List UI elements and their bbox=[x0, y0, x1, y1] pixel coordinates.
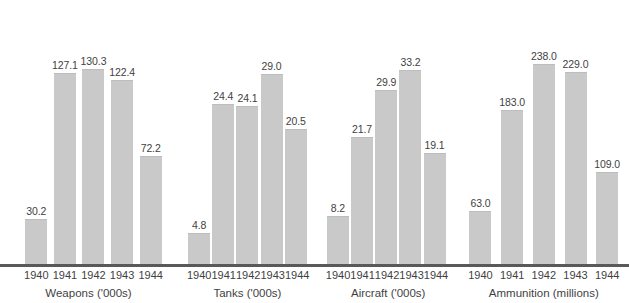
bar-value-label: 30.2 bbox=[26, 206, 46, 217]
bar-slot: 130.3 bbox=[79, 16, 108, 264]
x-tick-label: 1943 bbox=[108, 268, 137, 283]
bar bbox=[596, 172, 618, 264]
bar-value-label: 130.3 bbox=[81, 56, 107, 67]
panel-title: Ammunition (millions) bbox=[459, 286, 629, 300]
x-tick-label: 1944 bbox=[285, 268, 309, 283]
bar bbox=[212, 104, 234, 264]
bar-value-label: 229.0 bbox=[563, 59, 589, 70]
bar-value-label: 122.4 bbox=[109, 67, 135, 78]
x-tick-label: 1941 bbox=[350, 268, 374, 283]
x-tick-label: 1942 bbox=[528, 268, 560, 283]
x-tick-label: 1943 bbox=[260, 268, 284, 283]
bar-chart-figure: 30.2127.1130.3122.472.219401941194219431… bbox=[0, 0, 629, 303]
panel-title: Aircraft ('000s) bbox=[318, 286, 459, 300]
bar-slot: 30.2 bbox=[22, 16, 51, 264]
bar-value-label: 183.0 bbox=[499, 97, 525, 108]
x-tick-label: 1941 bbox=[51, 268, 80, 283]
x-tick-labels: 19401941194219431944 bbox=[0, 268, 177, 283]
bar bbox=[236, 106, 258, 264]
bar-slot: 238.0 bbox=[528, 16, 560, 264]
x-tick-label: 1942 bbox=[236, 268, 260, 283]
bar-slot: 20.5 bbox=[284, 16, 308, 264]
plot-area: 30.2127.1130.3122.472.2 bbox=[0, 16, 177, 264]
bar bbox=[375, 90, 397, 264]
bar bbox=[533, 64, 555, 264]
bar-slot: 24.4 bbox=[211, 16, 235, 264]
bar-value-label: 238.0 bbox=[531, 51, 557, 62]
bar-value-label: 19.1 bbox=[425, 140, 445, 151]
bar-value-label: 24.1 bbox=[237, 93, 257, 104]
x-tick-label: 1940 bbox=[465, 268, 497, 283]
bar-value-label: 29.0 bbox=[262, 61, 282, 72]
x-tick-label: 1944 bbox=[424, 268, 448, 283]
x-tick-labels: 19401941194219431944 bbox=[459, 268, 629, 283]
panel-weapons-000s: 30.2127.1130.3122.472.219401941194219431… bbox=[0, 0, 177, 303]
panel-tanks-000s: 4.824.424.129.020.519401941194219431944T… bbox=[177, 0, 318, 303]
bar bbox=[285, 129, 307, 264]
x-tick-label: 1942 bbox=[375, 268, 399, 283]
bar bbox=[327, 216, 349, 264]
bar-slot: 8.2 bbox=[326, 16, 350, 264]
x-axis-line bbox=[318, 264, 459, 267]
bar-value-label: 127.1 bbox=[52, 60, 78, 71]
x-tick-label: 1944 bbox=[136, 268, 165, 283]
x-tick-label: 1942 bbox=[79, 268, 108, 283]
bar-value-label: 8.2 bbox=[331, 203, 345, 214]
bar bbox=[469, 211, 491, 264]
x-tick-labels: 19401941194219431944 bbox=[318, 268, 459, 283]
panel-title: Tanks ('000s) bbox=[177, 286, 318, 300]
bar-slot: 63.0 bbox=[465, 16, 497, 264]
bar-slot: 109.0 bbox=[591, 16, 623, 264]
bar bbox=[25, 219, 47, 264]
bar-slot: 122.4 bbox=[108, 16, 137, 264]
panel-title: Weapons ('000s) bbox=[0, 286, 177, 300]
bar-value-label: 20.5 bbox=[286, 116, 306, 127]
x-tick-label: 1940 bbox=[187, 268, 211, 283]
bar bbox=[111, 80, 133, 264]
x-axis-line bbox=[177, 264, 318, 267]
x-tick-label: 1940 bbox=[22, 268, 51, 283]
bar-slot: 29.9 bbox=[374, 16, 398, 264]
bar-slot: 21.7 bbox=[350, 16, 374, 264]
bar bbox=[501, 110, 523, 264]
x-axis-line bbox=[459, 264, 629, 267]
bar-slot: 24.1 bbox=[235, 16, 259, 264]
x-tick-label: 1943 bbox=[560, 268, 592, 283]
x-tick-label: 1941 bbox=[211, 268, 235, 283]
x-tick-label: 1943 bbox=[399, 268, 423, 283]
bar-value-label: 21.7 bbox=[352, 124, 372, 135]
bar bbox=[399, 70, 421, 264]
bar bbox=[82, 69, 104, 264]
bar bbox=[261, 74, 283, 264]
bar-value-label: 29.9 bbox=[376, 77, 396, 88]
x-tick-label: 1941 bbox=[496, 268, 528, 283]
bar-value-label: 72.2 bbox=[141, 143, 161, 154]
panel-aircraft-000s: 8.221.729.933.219.119401941194219431944A… bbox=[318, 0, 459, 303]
bar bbox=[565, 72, 587, 264]
bar-slot: 183.0 bbox=[496, 16, 528, 264]
plot-area: 4.824.424.129.020.5 bbox=[177, 16, 318, 264]
x-tick-label: 1940 bbox=[326, 268, 350, 283]
bar bbox=[140, 156, 162, 264]
bar bbox=[351, 137, 373, 264]
bar bbox=[188, 233, 210, 265]
bar-slot: 19.1 bbox=[423, 16, 447, 264]
bar bbox=[54, 73, 76, 264]
bar-slot: 72.2 bbox=[136, 16, 165, 264]
panel-container: 30.2127.1130.3122.472.219401941194219431… bbox=[0, 0, 629, 303]
bar-slot: 127.1 bbox=[51, 16, 80, 264]
bar-value-label: 24.4 bbox=[213, 91, 233, 102]
bar-value-label: 4.8 bbox=[192, 220, 206, 231]
bar bbox=[424, 153, 446, 264]
plot-area: 8.221.729.933.219.1 bbox=[318, 16, 459, 264]
bar-value-label: 63.0 bbox=[470, 198, 490, 209]
x-axis-line bbox=[0, 264, 177, 267]
bar-value-label: 33.2 bbox=[400, 57, 420, 68]
bar-slot: 29.0 bbox=[260, 16, 284, 264]
bar-slot: 4.8 bbox=[187, 16, 211, 264]
x-tick-labels: 19401941194219431944 bbox=[177, 268, 318, 283]
bar-value-label: 109.0 bbox=[594, 159, 620, 170]
plot-area: 63.0183.0238.0229.0109.0 bbox=[459, 16, 629, 264]
x-tick-label: 1944 bbox=[591, 268, 623, 283]
bar-slot: 229.0 bbox=[560, 16, 592, 264]
